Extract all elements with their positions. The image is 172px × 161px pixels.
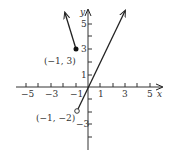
x-tick-label: 3 (122, 89, 128, 99)
x-tick-label: −3 (45, 89, 59, 99)
open-point (75, 109, 80, 114)
x-tick-label: 5 (147, 89, 153, 99)
y-tick-label: 5 (81, 19, 87, 29)
x-tick-label: −5 (21, 89, 35, 99)
ray-left-piece (65, 13, 76, 49)
y-tick-label: 3 (81, 44, 87, 54)
piecewise-graph: −5 −3 −1 1 3 5 x 5 3 1 −3 y (−1, 3) (−1,… (0, 0, 172, 161)
closed-point-label: (−1, 3) (44, 56, 76, 66)
y-tick-label: −3 (76, 119, 90, 129)
y-tick-label: 1 (81, 70, 87, 80)
y-axis-label: y (79, 7, 86, 17)
closed-point (74, 47, 79, 52)
x-tick-label: 1 (98, 89, 104, 99)
x-tick-label: −1 (70, 89, 83, 99)
x-axis-label: x (157, 89, 162, 99)
open-point-label: (−1, −2) (36, 113, 75, 123)
